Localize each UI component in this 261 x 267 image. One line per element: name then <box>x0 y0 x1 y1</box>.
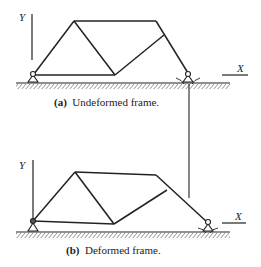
pin-support-left-a <box>28 72 38 83</box>
x-axis-label-a: X <box>237 62 244 74</box>
caption-b-text: Deformed frame. <box>85 244 161 256</box>
caption-a-text: Undeformed frame. <box>72 96 159 108</box>
frame-diagram <box>0 0 261 267</box>
y-axis-label-a: Y <box>19 11 25 23</box>
pin-support-right-a <box>176 72 200 85</box>
ground-hatch-b <box>16 233 230 238</box>
pin-support-right-b <box>198 220 218 234</box>
y-axis-label-b: Y <box>19 159 25 171</box>
x-axis-label-b: X <box>235 210 242 222</box>
undeformed-frame <box>16 14 248 89</box>
members-a <box>34 21 188 75</box>
caption-a: (a) Undeformed frame. <box>54 96 159 108</box>
pin-support-left-b <box>28 219 38 232</box>
members-b <box>33 172 207 224</box>
caption-b: (b) Deformed frame. <box>66 244 161 256</box>
caption-b-prefix: (b) <box>66 244 79 256</box>
ground-hatch-a <box>16 84 230 89</box>
caption-a-prefix: (a) <box>54 96 67 108</box>
deformed-frame <box>16 160 246 238</box>
